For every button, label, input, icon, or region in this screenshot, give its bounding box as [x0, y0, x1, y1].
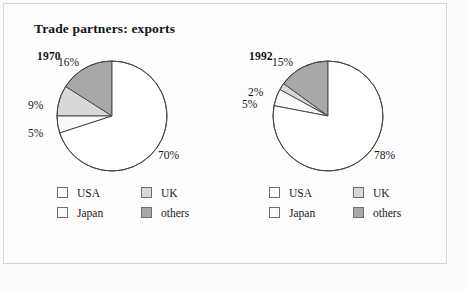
pie-chart-1970: 1970 16% 9% 5% 70% USA UK — [24, 0, 239, 240]
legend-1970: USA UK Japan others — [57, 183, 225, 225]
legend-item-uk[interactable]: UK — [353, 183, 390, 202]
legend-label-uk: UK — [161, 187, 178, 199]
slice-label-others: 16% — [58, 56, 79, 68]
pie-svg-1992 — [236, 58, 451, 178]
slice-label-others: 15% — [272, 56, 293, 68]
legend-label-usa: USA — [77, 187, 100, 199]
legend-label-others: others — [373, 207, 401, 219]
legend-row: USA UK — [57, 183, 225, 202]
legend-item-japan[interactable]: Japan — [269, 203, 315, 222]
legend-item-uk[interactable]: UK — [141, 183, 178, 202]
legend-swatch-others-icon — [141, 207, 152, 218]
pie-wrap-1992: 15% 2% 5% 78% — [236, 58, 451, 178]
chart-page: Trade partners: exports 1970 16% 9% 5% 7… — [0, 0, 468, 290]
slice-label-japan: 5% — [28, 127, 43, 139]
legend-swatch-japan-icon — [269, 207, 280, 218]
pie-wrap-1970: 16% 9% 5% 70% — [24, 58, 239, 178]
legend-label-japan: Japan — [289, 207, 315, 219]
legend-swatch-uk-icon — [141, 187, 152, 198]
slice-label-japan: 5% — [242, 98, 257, 110]
legend-label-usa: USA — [289, 187, 312, 199]
slice-label-uk: 9% — [28, 99, 43, 111]
legend-item-usa[interactable]: USA — [57, 183, 100, 202]
legend-swatch-usa-icon — [269, 187, 280, 198]
legend-item-japan[interactable]: Japan — [57, 203, 103, 222]
slice-label-uk: 2% — [248, 86, 263, 98]
legend-row: Japan others — [269, 203, 437, 222]
legend-label-japan: Japan — [77, 207, 103, 219]
legend-row: Japan others — [57, 203, 225, 222]
legend-label-others: others — [161, 207, 189, 219]
slice-label-usa: 78% — [374, 149, 395, 161]
legend-item-others[interactable]: others — [141, 203, 189, 222]
legend-swatch-usa-icon — [57, 187, 68, 198]
legend-1992: USA UK Japan others — [269, 183, 437, 225]
legend-swatch-others-icon — [353, 207, 364, 218]
legend-swatch-uk-icon — [353, 187, 364, 198]
legend-swatch-japan-icon — [57, 207, 68, 218]
slice-label-usa: 70% — [158, 149, 179, 161]
legend-item-others[interactable]: others — [353, 203, 401, 222]
legend-item-usa[interactable]: USA — [269, 183, 312, 202]
pie-chart-1992: 1992 15% 2% 5% 78% USA UK — [236, 0, 451, 240]
legend-label-uk: UK — [373, 187, 390, 199]
pie-svg-1970 — [24, 58, 239, 178]
legend-row: USA UK — [269, 183, 437, 202]
